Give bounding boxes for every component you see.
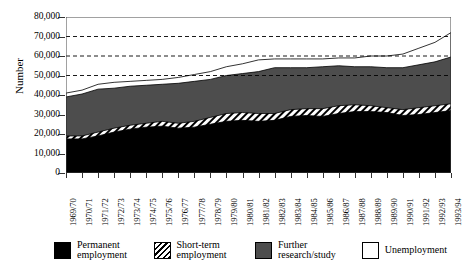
x-tick-mark	[82, 173, 83, 178]
legend-swatch-hatch	[154, 242, 171, 259]
x-tick-mark	[98, 173, 99, 178]
legend-swatch-white	[362, 242, 379, 259]
x-tick-mark	[178, 173, 179, 178]
legend-label: Furtherresearch/study	[278, 240, 336, 261]
legend-label: Unemployment	[385, 245, 447, 256]
x-tick-mark	[162, 173, 163, 178]
x-tick-mark	[66, 173, 67, 178]
legend-label-line2: research/study	[278, 249, 336, 260]
x-tick-label: 1992/93	[438, 198, 447, 226]
x-tick-mark	[210, 173, 211, 178]
x-tick-label: 1982/83	[278, 198, 287, 226]
legend-label-line1: Further	[278, 239, 307, 250]
x-tick-label: 1991/92	[422, 198, 431, 226]
x-tick-label: 1990/91	[406, 198, 415, 226]
x-tick-label: 1973/74	[133, 198, 142, 226]
legend-label: Short-termemployment	[177, 240, 227, 261]
x-tick-mark	[114, 173, 115, 178]
x-tick-mark	[403, 173, 404, 178]
x-tick-mark	[435, 173, 436, 178]
legend-label: Permanentemployment	[77, 240, 127, 261]
x-tick-mark	[451, 173, 452, 178]
x-tick-mark	[275, 173, 276, 178]
x-tick-mark	[371, 173, 372, 178]
legend-swatch-black	[54, 242, 71, 259]
x-tick-mark	[419, 173, 420, 178]
legend-swatch-gray	[255, 242, 272, 259]
legend-item: Unemployment	[362, 242, 454, 259]
x-tick-label: 1980/81	[246, 198, 255, 226]
x-tick-label: 1984/85	[310, 198, 319, 226]
legend-label-line2: employment	[177, 249, 227, 260]
x-tick-label: 1974/75	[149, 198, 158, 226]
x-tick-mark	[243, 173, 244, 178]
legend-label-line1: Short-term	[177, 239, 220, 250]
legend-item: Permanentemployment	[54, 240, 154, 261]
x-tick-mark	[387, 173, 388, 178]
x-tick-label: 1972/73	[117, 198, 126, 226]
x-tick-label: 1987/88	[358, 198, 367, 226]
x-tick-mark	[323, 173, 324, 178]
x-tick-label: 1988/89	[374, 198, 383, 226]
legend-item: Short-termemployment	[154, 240, 255, 261]
x-tick-label: 1977/78	[198, 198, 207, 226]
x-tick-label: 1976/77	[181, 198, 190, 226]
x-tick-label: 1970/71	[85, 198, 94, 226]
x-tick-mark	[339, 173, 340, 178]
legend-item: Furtherresearch/study	[255, 240, 362, 261]
x-tick-label: 1989/90	[390, 198, 399, 226]
x-tick-label: 1981/82	[262, 198, 271, 226]
x-tick-label: 1975/76	[165, 198, 174, 226]
legend-label-line1: Unemployment	[385, 244, 447, 255]
x-tick-label: 1985/86	[326, 198, 335, 226]
x-tick-mark	[226, 173, 227, 178]
x-tick-label: 1971/72	[101, 198, 110, 226]
x-tick-mark	[146, 173, 147, 178]
x-tick-label: 1979/80	[230, 198, 239, 226]
legend-label-line2: employment	[77, 249, 127, 260]
x-tick-label: 1978/79	[214, 198, 223, 226]
x-tick-mark	[259, 173, 260, 178]
x-tick-mark	[194, 173, 195, 178]
x-tick-mark	[291, 173, 292, 178]
x-tick-label: 1983/84	[294, 198, 303, 226]
x-tick-label: 1969/70	[69, 198, 78, 226]
x-tick-mark	[130, 173, 131, 178]
x-tick-mark	[307, 173, 308, 178]
x-tick-mark	[355, 173, 356, 178]
legend-label-line1: Permanent	[77, 239, 120, 250]
chart-legend: PermanentemploymentShort-termemploymentF…	[54, 236, 454, 264]
x-tick-label: 1986/87	[342, 198, 351, 226]
x-tick-label: 1993/94	[454, 198, 463, 226]
